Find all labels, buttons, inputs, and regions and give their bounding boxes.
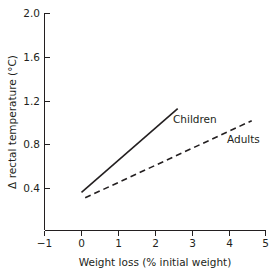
y-axis-title: Δ rectal temperature (°C): [6, 55, 18, 189]
y-tick-label: 0.8: [23, 138, 40, 150]
x-tick-label: 0: [78, 237, 85, 249]
x-tick-label: −1: [37, 237, 52, 249]
series-label-adults: Adults: [227, 133, 260, 145]
x-tick-label: 3: [189, 237, 196, 249]
series-label-children: Children: [173, 113, 217, 125]
x-tick-label: 1: [115, 237, 122, 249]
y-axis-ticks: [45, 14, 51, 189]
x-axis-ticks: [45, 231, 266, 237]
x-tick-label: 2: [152, 237, 159, 249]
y-tick-label: 2.0: [23, 7, 40, 19]
chart-svg: 2.0 1.6 1.2 0.8 0.4 −1 0 1 2 3 4 5 Weigh…: [0, 0, 278, 273]
x-tick-label: 4: [226, 237, 233, 249]
series-line-children: [82, 109, 178, 193]
chart-figure: 2.0 1.6 1.2 0.8 0.4 −1 0 1 2 3 4 5 Weigh…: [0, 0, 278, 273]
x-axis-title: Weight loss (% initial weight): [79, 256, 232, 268]
x-tick-label: 5: [262, 237, 269, 249]
y-tick-label: 1.2: [23, 95, 40, 107]
y-tick-label: 0.4: [23, 182, 40, 194]
y-tick-label: 1.6: [23, 51, 40, 63]
